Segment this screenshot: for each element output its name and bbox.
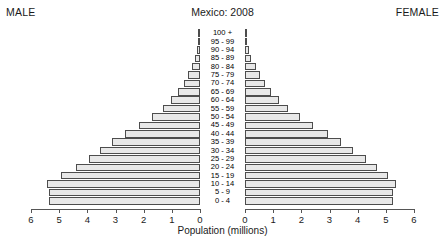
female-bar [245,46,249,54]
axis-tick-label: 3 [327,214,332,225]
female-bar [245,189,393,197]
male-bar [100,147,200,155]
female-bar [245,55,251,63]
male-bar [125,130,200,138]
axis-tick-label: 5 [57,214,62,225]
axis-tick-label: 6 [411,214,416,225]
age-group-axis: 100 +95 - 9990 - 9485 - 8980 - 8475 - 79… [200,29,245,205]
female-bar [245,71,260,79]
male-bars-panel [31,29,200,205]
axis-tick [386,209,387,213]
axis-tick [200,209,201,213]
male-bar [76,164,200,172]
female-bar [245,63,256,71]
axis-tick [330,209,331,213]
axis-tick [301,209,302,213]
male-bar [49,197,200,205]
female-bars-panel [245,29,414,205]
axis-tick-label: 5 [383,214,388,225]
male-bar [49,189,200,197]
axis-tick [358,209,359,213]
male-bar [61,172,200,180]
axis-tick [172,209,173,213]
female-bar [245,130,328,138]
population-pyramid-figure: MALE FEMALE Mexico: 2008 100 +95 - 9990 … [0,0,445,240]
plot-area: 100 +95 - 9990 - 9485 - 8980 - 8475 - 79… [0,0,445,240]
axis-tick [59,209,60,213]
axis-tick-label: 1 [169,214,174,225]
axis-tick-label: 0 [197,214,202,225]
female-bar [245,38,247,46]
axis-tick [245,209,246,213]
female-bar [245,138,341,146]
male-bar [178,88,200,96]
axis-tick [87,209,88,213]
age-group-label: 35 - 39 [200,138,245,146]
female-bar [245,113,300,121]
male-bar [184,80,200,88]
female-bar [245,29,247,37]
female-bar [245,96,279,104]
male-bar [139,122,200,130]
female-bar [245,88,271,96]
axis-tick-label: 3 [113,214,118,225]
male-bar [89,155,200,163]
male-bar [47,180,200,188]
female-bar [245,105,288,113]
male-bar [163,105,200,113]
female-bar [245,197,393,205]
male-bar [112,138,200,146]
axis-tick [144,209,145,213]
axis-tick-label: 4 [355,214,360,225]
axis-tick-label: 4 [85,214,90,225]
male-bar [152,113,200,121]
female-bar [245,180,396,188]
axis-tick-label: 6 [28,214,33,225]
axis-tick-label: 2 [141,214,146,225]
male-bar [192,63,200,71]
female-bar [245,122,313,130]
age-group-label: 0 - 4 [200,197,245,205]
age-group-label: 100 + [200,29,245,37]
female-bar [245,164,377,172]
female-bar [245,80,265,88]
male-bar [188,71,200,79]
axis-tick [414,209,415,213]
female-bar [245,155,366,163]
female-bar [245,147,353,155]
axis-tick-label: 1 [271,214,276,225]
axis-tick [273,209,274,213]
axis-tick [31,209,32,213]
female-bar [245,172,388,180]
axis-tick-label: 0 [242,214,247,225]
axis-tick-label: 2 [299,214,304,225]
x-axis-caption: Population (millions) [0,225,445,236]
axis-tick [116,209,117,213]
male-bar [171,96,200,104]
